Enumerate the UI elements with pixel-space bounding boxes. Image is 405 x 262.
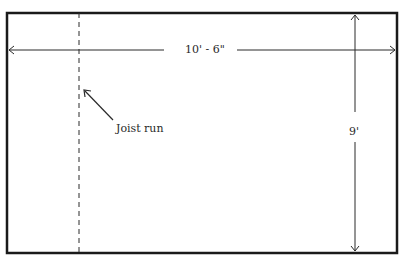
joist-pointer-shaft	[85, 91, 113, 120]
joist-run-label: Joist run	[116, 123, 164, 134]
width-dimension-label: 10' - 6"	[183, 44, 227, 55]
diagram-canvas	[0, 0, 405, 262]
height-dimension-label: 9'	[349, 124, 359, 139]
joist-pointer-arrow	[84, 90, 113, 120]
